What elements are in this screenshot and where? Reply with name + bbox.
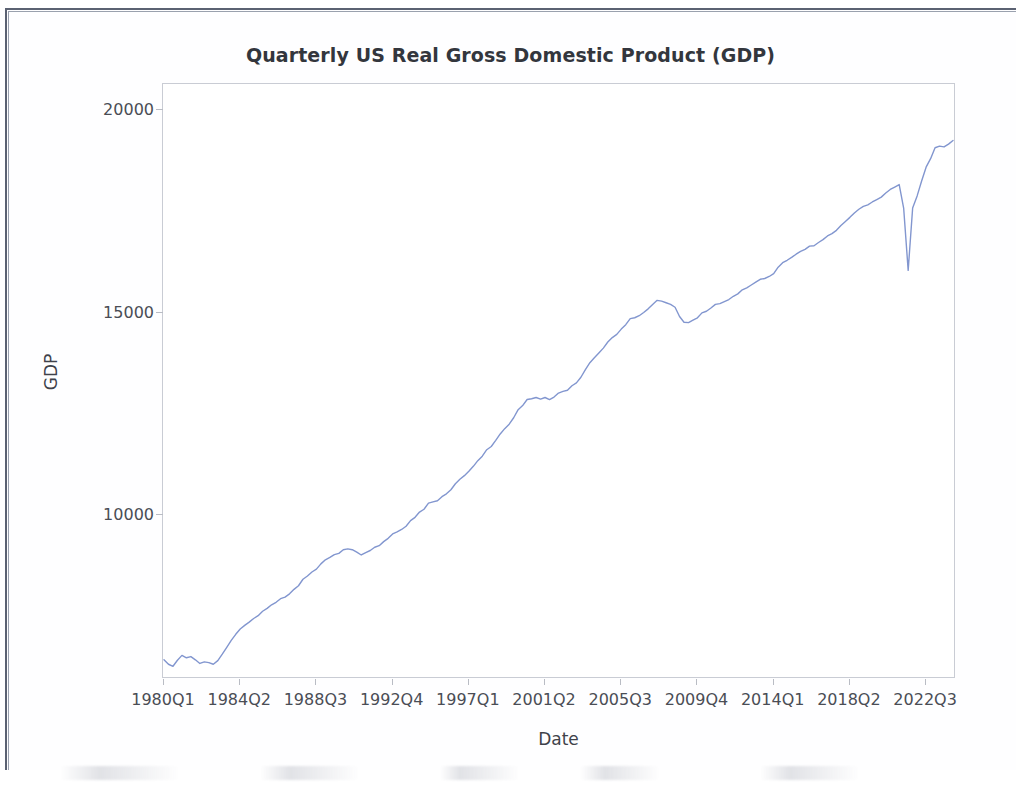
x-axis-title: Date <box>162 729 955 749</box>
y-tick-mark <box>156 109 163 110</box>
x-tick-label: 2001Q2 <box>512 690 576 709</box>
y-tick-mark <box>156 312 163 313</box>
x-tick-mark <box>315 679 316 685</box>
x-tick-mark <box>620 679 621 685</box>
x-tick-label: 1992Q4 <box>360 690 424 709</box>
y-axis-title: GDP <box>41 312 61 432</box>
x-axis-tick-labels: 1980Q11984Q21988Q31992Q41997Q12001Q22005… <box>162 690 955 714</box>
x-tick-label: 1988Q3 <box>284 690 348 709</box>
y-tick-label: 20000 <box>74 100 154 119</box>
x-tick-mark <box>392 679 393 685</box>
y-tick-mark <box>156 514 163 515</box>
x-tick-label: 1980Q1 <box>131 690 195 709</box>
plot-area <box>162 83 955 678</box>
y-axis-tick-labels: 200001500010000 <box>68 83 154 678</box>
x-tick-label: 2005Q3 <box>589 690 653 709</box>
x-tick-mark <box>544 679 545 685</box>
gdp-line-chart: Quarterly US Real Gross Domestic Product… <box>0 0 1021 787</box>
x-tick-mark <box>468 679 469 685</box>
x-tick-mark <box>925 679 926 685</box>
x-tick-mark <box>239 679 240 685</box>
x-tick-label: 2014Q1 <box>741 690 805 709</box>
chart-title: Quarterly US Real Gross Domestic Product… <box>0 44 1021 66</box>
x-tick-label: 2018Q2 <box>817 690 881 709</box>
x-tick-mark <box>696 679 697 685</box>
x-tick-label: 2022Q3 <box>893 690 957 709</box>
gdp-series-line <box>163 84 954 677</box>
x-tick-label: 1997Q1 <box>436 690 500 709</box>
x-tick-mark <box>849 679 850 685</box>
y-tick-label: 10000 <box>74 505 154 524</box>
y-tick-label: 15000 <box>74 302 154 321</box>
x-tick-mark <box>773 679 774 685</box>
x-tick-mark <box>163 679 164 685</box>
x-tick-label: 1984Q2 <box>207 690 271 709</box>
x-tick-label: 2009Q4 <box>665 690 729 709</box>
